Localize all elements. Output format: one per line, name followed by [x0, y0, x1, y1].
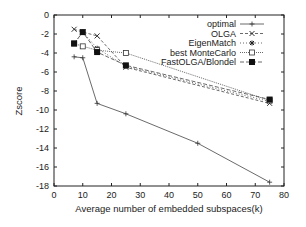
- legend-label: EigenMatch: [188, 38, 236, 48]
- plus-marker: [250, 22, 255, 27]
- legend-item: OLGA: [211, 29, 264, 39]
- x-tick-label: 20: [106, 190, 116, 200]
- star-marker: [250, 41, 255, 46]
- cross-marker: [72, 27, 77, 32]
- x-tick-label: 70: [250, 190, 260, 200]
- legend-item: optimal: [207, 19, 264, 29]
- series-optimal: [72, 54, 273, 184]
- x-tick-label: 50: [193, 190, 203, 200]
- plus-marker: [80, 55, 85, 60]
- filled-square-marker: [249, 59, 255, 65]
- filled-square-marker: [94, 49, 100, 55]
- filled-square-marker: [267, 97, 273, 103]
- plus-marker: [72, 54, 77, 59]
- plus-marker: [123, 111, 128, 116]
- filled-square-marker: [71, 41, 77, 47]
- legend: optimalOLGAEigenMatchbest MonteCarloFast…: [161, 19, 264, 67]
- legend-item: EigenMatch: [188, 38, 264, 48]
- x-tick-label: 80: [279, 190, 289, 200]
- open-square-marker: [123, 51, 128, 56]
- y-axis-label: Zscore: [13, 86, 24, 115]
- filled-square-marker: [80, 29, 86, 35]
- y-tick-label: -6: [41, 67, 49, 77]
- x-tick-label: 0: [51, 190, 56, 200]
- x-tick-label: 60: [221, 190, 231, 200]
- open-square-marker: [250, 50, 255, 55]
- y-tick-label: -8: [41, 86, 49, 96]
- legend-label: OLGA: [211, 29, 236, 39]
- x-tick-label: 30: [135, 190, 145, 200]
- plus-marker: [95, 101, 100, 106]
- x-tick-label: 10: [78, 190, 88, 200]
- y-tick-label: -10: [36, 105, 49, 115]
- legend-label: FastOLGA/Blondel: [161, 57, 236, 67]
- legend-item: FastOLGA/Blondel: [161, 57, 264, 67]
- x-axis-label: Average number of embedded subspaces(k): [75, 203, 262, 214]
- series-line: [74, 57, 270, 182]
- y-tick-label: -12: [36, 124, 49, 134]
- y-tick-label: -14: [36, 143, 49, 153]
- filled-square-marker: [123, 62, 129, 68]
- zscore-line-chart: 010203040506070800-2-4-6-8-10-12-14-16-1…: [0, 0, 306, 227]
- x-tick-label: 40: [164, 190, 174, 200]
- y-tick-label: -18: [36, 181, 49, 191]
- y-tick-label: -2: [41, 29, 49, 39]
- y-tick-label: 0: [44, 10, 49, 20]
- plus-marker: [195, 141, 200, 146]
- y-tick-label: -16: [36, 162, 49, 172]
- legend-item: best MonteCarlo: [170, 48, 264, 58]
- plus-marker: [267, 180, 272, 185]
- axes: 010203040506070800-2-4-6-8-10-12-14-16-1…: [36, 10, 289, 200]
- y-tick-label: -4: [41, 48, 49, 58]
- open-square-marker: [80, 44, 85, 49]
- legend-label: optimal: [207, 19, 236, 29]
- legend-label: best MonteCarlo: [170, 48, 236, 58]
- cross-marker: [95, 33, 100, 38]
